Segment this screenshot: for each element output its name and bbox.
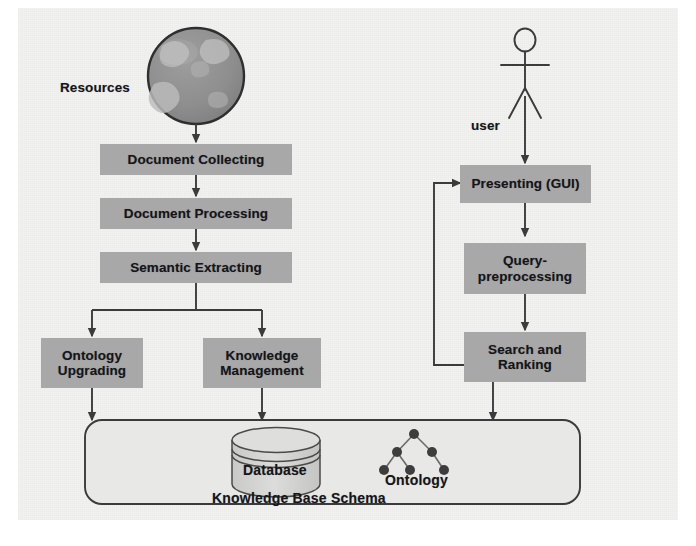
process-box-document-collecting[interactable]: Document Collecting xyxy=(100,144,292,175)
process-box-label: Presenting (GUI) xyxy=(471,176,579,191)
process-box-label-line2: preprocessing xyxy=(478,269,572,284)
globe-icon xyxy=(148,28,244,124)
process-box-query-preprocessing[interactable]: Query- preprocessing xyxy=(464,243,586,294)
process-box-knowledge-management[interactable]: Knowledge Management xyxy=(203,338,321,388)
database-label: Database xyxy=(243,462,307,478)
process-box-presenting-gui[interactable]: Presenting (GUI) xyxy=(460,165,591,203)
process-box-label: Document Collecting xyxy=(128,152,265,167)
ontology-label: Ontology xyxy=(385,472,448,488)
process-box-label-line1: Search and xyxy=(488,342,562,357)
process-box-label-line2: Ranking xyxy=(498,357,552,372)
process-box-label-line2: Management xyxy=(220,363,304,378)
knowledge-base-schema-label: Knowledge Base Schema xyxy=(212,490,386,506)
diagram-page: Resources user Document Collecting Docum… xyxy=(0,0,696,546)
process-box-search-and-ranking[interactable]: Search and Ranking xyxy=(464,332,586,382)
process-box-document-processing[interactable]: Document Processing xyxy=(100,198,292,229)
process-box-label-line2: Upgrading xyxy=(58,363,126,378)
resources-label: Resources xyxy=(60,80,130,95)
connector-feedback-search-to-presenting xyxy=(434,183,465,365)
process-box-label-line1: Ontology xyxy=(62,348,122,363)
process-box-label-line1: Knowledge xyxy=(226,348,299,363)
process-box-semantic-extracting[interactable]: Semantic Extracting xyxy=(100,252,292,283)
process-box-label: Document Processing xyxy=(124,206,268,221)
process-box-label-line1: Query- xyxy=(503,253,547,268)
process-box-label: Semantic Extracting xyxy=(130,260,262,275)
process-box-ontology-upgrading[interactable]: Ontology Upgrading xyxy=(41,338,143,388)
user-label: user xyxy=(471,118,500,133)
